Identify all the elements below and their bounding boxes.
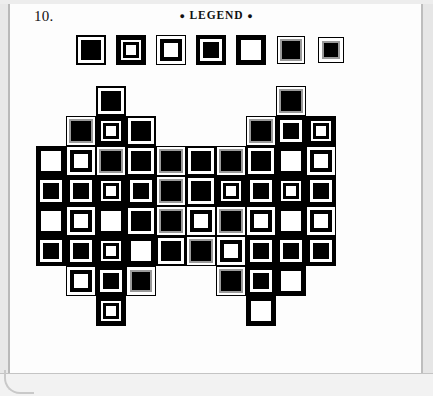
grid-cell[interactable] [66, 176, 96, 206]
grid-cell[interactable] [276, 146, 306, 176]
grid-cell[interactable] [306, 176, 336, 206]
grid-cell[interactable] [246, 146, 276, 176]
grid-cell[interactable] [36, 146, 66, 176]
grid-cell[interactable] [156, 146, 186, 176]
symbol-tile-a [186, 146, 216, 176]
symbol-tile-b [96, 296, 126, 326]
grid-cell[interactable] [96, 236, 126, 266]
symbol-tile-f [96, 146, 126, 176]
tile-core [161, 241, 181, 261]
grid-cell[interactable] [306, 146, 336, 176]
grid-cell[interactable] [126, 266, 156, 296]
tile-core [41, 211, 61, 231]
tile-core [251, 151, 271, 171]
grid-cell[interactable] [276, 266, 306, 296]
symbol-tile-c [66, 266, 96, 296]
tile-core [194, 214, 208, 228]
grid-cell[interactable] [276, 206, 306, 236]
grid-cell[interactable] [126, 206, 156, 236]
symbol-tile-d [306, 236, 336, 266]
grid-cell[interactable] [156, 236, 186, 266]
grid-cell[interactable] [126, 116, 156, 146]
grid-cell[interactable] [96, 266, 126, 296]
tile-core [314, 154, 328, 168]
grid-cell[interactable] [186, 176, 216, 206]
grid-cell[interactable] [246, 176, 276, 206]
grid-cell[interactable] [66, 206, 96, 236]
legend-item-e[interactable] [236, 35, 266, 65]
grid-cell[interactable] [96, 296, 126, 326]
grid-cell[interactable] [96, 116, 126, 146]
grid-cell[interactable] [186, 236, 216, 266]
tile-core [313, 183, 329, 199]
legend-item-c[interactable] [156, 35, 186, 65]
symbol-tile-e [276, 266, 306, 296]
grid-cell[interactable] [66, 236, 96, 266]
grid-cell[interactable] [276, 86, 306, 116]
tile-core [74, 154, 88, 168]
tile-core [126, 45, 136, 55]
tile-core [43, 183, 59, 199]
symbol-tile-f [277, 36, 305, 64]
grid-cell[interactable] [216, 176, 246, 206]
grid-cell[interactable] [156, 176, 186, 206]
grid-cell[interactable] [246, 266, 276, 296]
grid-cell[interactable] [96, 176, 126, 206]
grid-cell[interactable] [186, 206, 216, 236]
tile-core [74, 274, 88, 288]
symbol-tile-b [276, 176, 306, 206]
tile-core [164, 43, 178, 57]
symbol-tile-c [66, 146, 96, 176]
grid-cell[interactable] [216, 236, 246, 266]
grid-cell[interactable] [66, 146, 96, 176]
legend-item-b[interactable] [116, 35, 146, 65]
tile-core [73, 183, 89, 199]
grid-cell[interactable] [96, 86, 126, 116]
tile-core [191, 241, 211, 261]
grid-cell[interactable] [96, 146, 126, 176]
symbol-tile-a [96, 86, 126, 116]
grid-cell[interactable] [36, 206, 66, 236]
grid-cell[interactable] [276, 116, 306, 146]
grid-cell[interactable] [186, 146, 216, 176]
legend-item-g[interactable] [316, 35, 346, 65]
tile-core [281, 151, 301, 171]
legend-item-a[interactable] [76, 35, 106, 65]
symbol-tile-b [216, 176, 246, 206]
grid-cell[interactable] [246, 236, 276, 266]
legend-item-d[interactable] [196, 35, 226, 65]
grid-cell[interactable] [216, 266, 246, 296]
symbol-tile-d [276, 236, 306, 266]
grid-cell[interactable] [216, 146, 246, 176]
grid-cell[interactable] [216, 206, 246, 236]
grid-cell[interactable] [126, 146, 156, 176]
symbol-tile-g [126, 266, 156, 296]
grid-cell[interactable] [246, 296, 276, 326]
tile-core [286, 186, 296, 196]
symbol-tile-c [306, 146, 336, 176]
symbol-tile-e [236, 35, 266, 65]
grid-cell[interactable] [66, 266, 96, 296]
grid-cell[interactable] [66, 116, 96, 146]
grid-cell[interactable] [36, 236, 66, 266]
grid-cell[interactable] [246, 116, 276, 146]
grid-cell[interactable] [306, 116, 336, 146]
tile-core [281, 211, 301, 231]
grid-cell[interactable] [36, 176, 66, 206]
grid-cell[interactable] [156, 206, 186, 236]
symbol-tile-c [186, 206, 216, 236]
grid-cell[interactable] [126, 176, 156, 206]
legend-item-f[interactable] [276, 35, 306, 65]
grid-cell[interactable] [246, 206, 276, 236]
tile-core [161, 181, 181, 201]
grid-cell[interactable] [306, 236, 336, 266]
grid-cell[interactable] [276, 236, 306, 266]
tile-core [191, 181, 211, 201]
symbol-tile-f [216, 266, 246, 296]
grid-cell[interactable] [126, 236, 156, 266]
symbol-tile-e [126, 236, 156, 266]
grid-cell[interactable] [276, 176, 306, 206]
grid-cell[interactable] [306, 206, 336, 236]
grid-cell[interactable] [96, 206, 126, 236]
page-edge-right [423, 0, 433, 396]
